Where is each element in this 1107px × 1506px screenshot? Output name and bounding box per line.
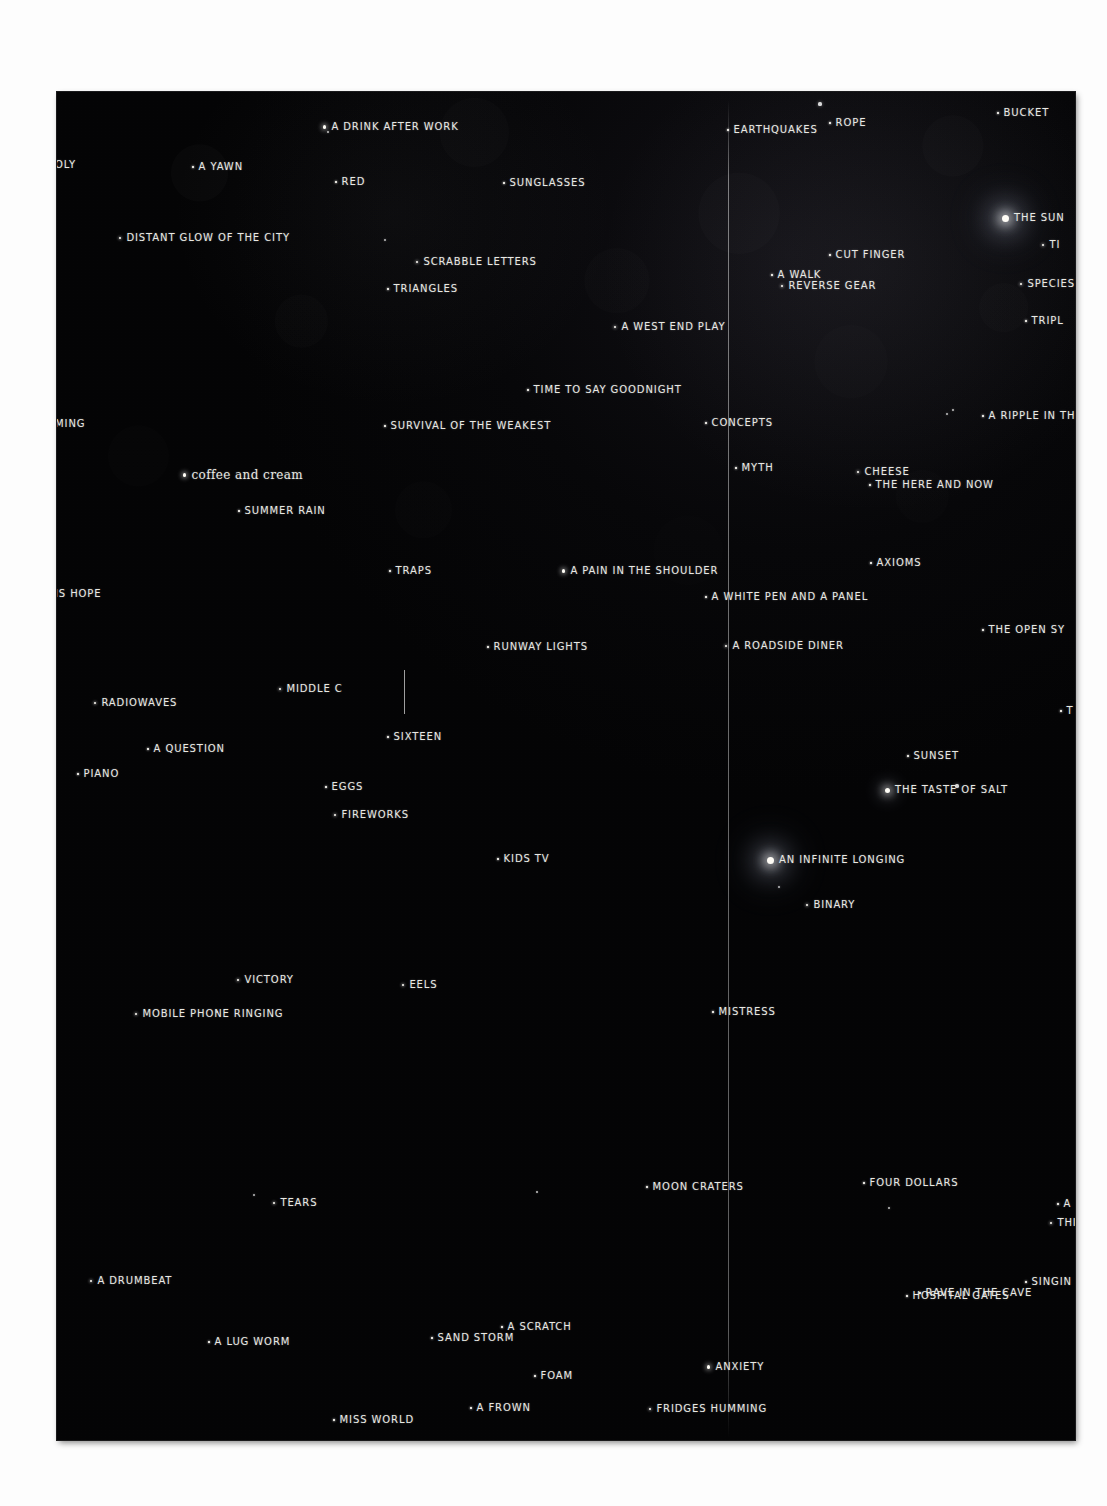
star-entry-concepts: CONCEPTS	[705, 418, 773, 428]
star-label: AN INFINITE LONGING	[779, 855, 905, 865]
star-label: A DRINK AFTER WORK	[331, 122, 458, 132]
star-label: THE OPEN SY	[989, 625, 1065, 635]
star-dot-icon	[1042, 244, 1044, 246]
star-label: TRIANGLES	[394, 284, 458, 294]
star-dot-icon	[781, 285, 783, 287]
star-label: A YAWN	[199, 162, 243, 172]
field-star	[888, 1207, 890, 1209]
star-label: THE TASTE OF SALT	[895, 785, 1008, 795]
field-star	[946, 413, 948, 415]
field-star	[536, 1191, 538, 1193]
star-label: FIREWORKS	[341, 810, 409, 820]
star-dot-icon	[870, 562, 872, 564]
star-entry-reverse-gear: REVERSE GEAR	[781, 281, 876, 291]
star-label: SINGIN	[1032, 1277, 1072, 1287]
star-dot-icon	[534, 1375, 536, 1377]
star-entry-miss-world: MISS WORLD	[333, 1415, 414, 1425]
star-dot-icon	[402, 984, 404, 986]
star-entry-the-taste-of-salt: THE TASTE OF SALT	[885, 785, 1008, 795]
star-entry-an-infinite-longing: AN INFINITE LONGING	[767, 855, 905, 865]
star-dot-icon	[614, 326, 616, 328]
star-label: PIANO	[84, 769, 120, 779]
star-entry-t: T	[1060, 706, 1074, 716]
star-entry-sunset: SUNSET	[907, 751, 959, 761]
star-label: FOAM	[541, 1371, 574, 1381]
star-dot-icon	[1060, 710, 1062, 712]
star-entry-species: SPECIES	[1020, 279, 1075, 289]
star-entry-a-drumbeat: A DRUMBEAT	[90, 1276, 172, 1286]
star-dot-icon	[857, 471, 859, 473]
star-entry-earthquakes: EARTHQUAKES	[727, 125, 818, 135]
star-dot-icon	[147, 748, 149, 750]
star-label: THI	[1057, 1218, 1075, 1228]
emulsion-grain	[57, 92, 1075, 1440]
star-dot-icon	[387, 288, 389, 290]
star-dot-icon	[771, 274, 773, 276]
star-label: RADIOWAVES	[101, 698, 177, 708]
star-entry-a-roadside-diner: A ROADSIDE DINER	[725, 641, 844, 651]
star-label: BUCKET	[1004, 108, 1050, 118]
fine-grain-texture	[57, 92, 1075, 1440]
star-dot-icon	[323, 125, 326, 128]
star-label: SURVIVAL OF THE WEAKEST	[391, 421, 552, 431]
star-entry-traps: TRAPS	[389, 566, 432, 576]
star-label: coffee and cream	[191, 469, 303, 481]
star-dot-icon	[1002, 215, 1009, 222]
star-entry-middle-c: MIDDLE C	[279, 684, 343, 694]
star-entry-a-white-pen-and-a-panel: A WHITE PEN AND A PANEL	[705, 592, 868, 602]
star-entry-a-lug-worm: A LUG WORM	[208, 1337, 290, 1347]
star-label: RED	[342, 177, 366, 187]
star-dot-icon	[649, 1408, 651, 1410]
star-entry-the-here-and-now: THE HERE AND NOW	[869, 480, 994, 490]
star-label: CONCEPTS	[712, 418, 773, 428]
star-dot-icon	[907, 755, 909, 757]
star-entry-binary: BINARY	[806, 900, 855, 910]
star-dot-icon	[325, 786, 327, 788]
star-label: SAND STORM	[438, 1333, 515, 1343]
field-star	[253, 1194, 255, 1196]
star-entry-a-question: A QUESTION	[147, 744, 225, 754]
star-label: RAVE IN THE CAVE	[926, 1288, 1033, 1298]
star-entry-ti: TI	[1042, 240, 1060, 250]
field-star	[952, 409, 954, 411]
field-star	[384, 239, 386, 241]
night-sky-plate: OLYA DRINK AFTER WORKEARTHQUAKESROPEBUCK…	[57, 92, 1075, 1440]
star-entry-rave-in-the-cave: RAVE IN THE CAVE	[919, 1288, 1032, 1298]
star-dot-icon	[135, 1013, 137, 1015]
star-label: VICTORY	[244, 975, 293, 985]
star-dot-icon	[997, 112, 999, 114]
star-label: KIDS TV	[504, 854, 550, 864]
star-label: REVERSE GEAR	[788, 281, 876, 291]
field-star	[818, 102, 821, 105]
star-label: TEARS	[280, 1198, 317, 1208]
star-entry-time-to-say-goodnight: TIME TO SAY GOODNIGHT	[527, 385, 682, 395]
star-label: ROPE	[836, 118, 867, 128]
star-dot-icon	[727, 129, 729, 131]
star-label: OLY	[57, 160, 76, 170]
star-label: A FROWN	[477, 1403, 531, 1413]
star-dot-icon	[501, 1326, 503, 1328]
star-dot-icon	[119, 237, 121, 239]
star-dot-icon	[735, 467, 737, 469]
star-label: EELS	[409, 980, 437, 990]
star-label: MIDDLE C	[286, 684, 342, 694]
star-dot-icon	[1057, 1203, 1059, 1205]
star-entry-fireworks: FIREWORKS	[334, 810, 409, 820]
star-dot-icon	[982, 629, 984, 631]
field-star	[778, 886, 780, 888]
star-entry-four-dollars: FOUR DOLLARS	[863, 1178, 959, 1188]
star-entry-bucket: BUCKET	[997, 108, 1049, 118]
star-label: TRAPS	[396, 566, 432, 576]
star-label: IS HOPE	[57, 589, 102, 599]
star-label: MOBILE PHONE RINGING	[142, 1009, 283, 1019]
star-dot-icon	[279, 688, 281, 690]
star-label: AXIOMS	[877, 558, 922, 568]
star-label: A PAIN IN THE SHOULDER	[570, 566, 718, 576]
star-entry-cut-finger: CUT FINGER	[829, 250, 905, 260]
star-dot-icon	[237, 979, 239, 981]
star-label: MISS WORLD	[340, 1415, 414, 1425]
star-dot-icon	[725, 645, 727, 647]
star-dot-icon	[982, 415, 984, 417]
star-dot-icon	[1050, 1222, 1052, 1224]
star-label: DISTANT GLOW OF THE CITY	[126, 233, 290, 243]
